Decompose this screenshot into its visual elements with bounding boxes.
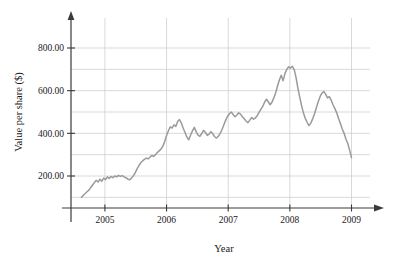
x-axis-tick-label: 2005 xyxy=(95,215,114,225)
x-axis-tick-label: 2007 xyxy=(219,215,238,225)
series-line-value-per-share xyxy=(81,66,351,197)
y-axis-tick-label: 200.00 xyxy=(38,171,64,181)
y-axis-tick-labels: 200.00400.00600.00800.00 xyxy=(38,43,64,181)
stock-value-line-chart: 200.00400.00600.00800.00 200520062007200… xyxy=(0,0,395,261)
x-axis-title: Year xyxy=(214,243,234,254)
y-axis-arrowhead xyxy=(68,11,75,20)
chart-canvas: 200.00400.00600.00800.00 200520062007200… xyxy=(0,0,395,261)
x-axis-tick-label: 2009 xyxy=(342,215,361,225)
data-series-line xyxy=(81,66,351,197)
x-axis-arrowhead xyxy=(374,204,384,211)
x-axis-tick-label: 2008 xyxy=(280,215,299,225)
y-axis-tick-label: 600.00 xyxy=(38,86,64,96)
y-axis-tick-label: 800.00 xyxy=(38,43,64,53)
x-axis-tick-label: 2006 xyxy=(157,215,176,225)
y-axis-tick-label: 400.00 xyxy=(38,129,64,139)
y-axis-title: Value per share ($) xyxy=(13,72,25,152)
x-axis-tick-labels: 20052006200720082009 xyxy=(95,215,361,225)
horizontal-gridlines xyxy=(71,48,370,197)
axes xyxy=(62,11,384,222)
